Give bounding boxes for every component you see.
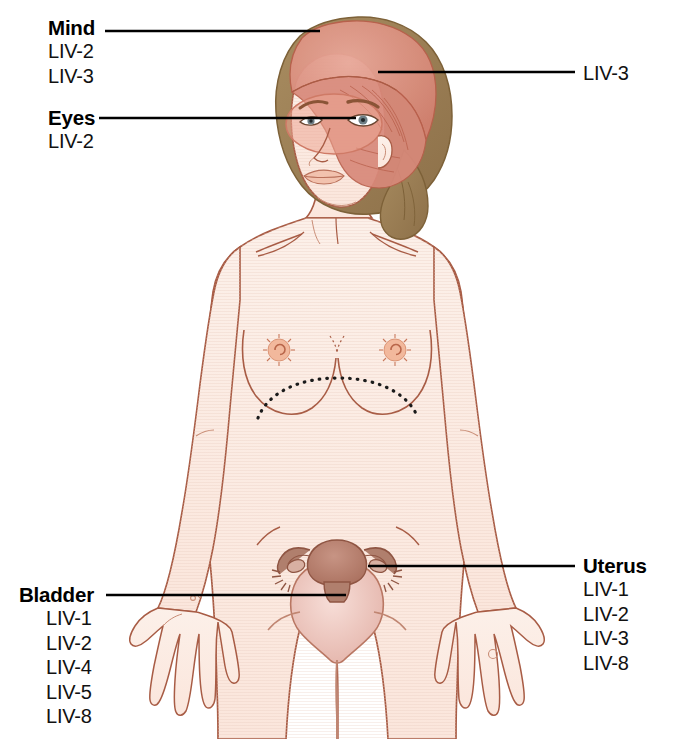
label-point-uterus-3: LIV-8 <box>583 651 647 676</box>
label-point-uterus-2: LIV-3 <box>583 626 647 651</box>
label-point-eyes-0: LIV-2 <box>48 129 95 154</box>
label-point-bladder-1: LIV-2 <box>19 631 94 656</box>
label-point-mind-0: LIV-2 <box>48 39 95 64</box>
label-block-eyes: Eyes LIV-2 <box>48 106 95 154</box>
label-title-uterus: Uterus <box>583 554 647 577</box>
label-block-mind: Mind LIV-2 LIV-3 <box>48 16 95 88</box>
label-title-eyes: Eyes <box>48 106 95 129</box>
label-point-uterus-1: LIV-2 <box>583 602 647 627</box>
label-point-bladder-0: LIV-1 <box>19 606 94 631</box>
label-block-uterus: Uterus LIV-1 LIV-2 LIV-3 LIV-8 <box>583 554 647 675</box>
label-head-point-liv3: LIV-3 <box>583 62 629 85</box>
label-point-mind-1: LIV-3 <box>48 64 95 89</box>
head-group <box>276 17 452 239</box>
uterus-organ <box>307 540 366 586</box>
label-point-bladder-2: LIV-4 <box>19 655 94 680</box>
label-title-mind: Mind <box>48 16 95 39</box>
label-point-uterus-0: LIV-1 <box>583 577 647 602</box>
label-point-bladder-3: LIV-5 <box>19 680 94 705</box>
label-point-bladder-4: LIV-8 <box>19 704 94 729</box>
label-title-bladder: Bladder <box>19 583 94 606</box>
label-block-bladder: Bladder LIV-1 LIV-2 LIV-4 LIV-5 LIV-8 <box>19 583 94 729</box>
anatomical-figure <box>0 0 676 739</box>
